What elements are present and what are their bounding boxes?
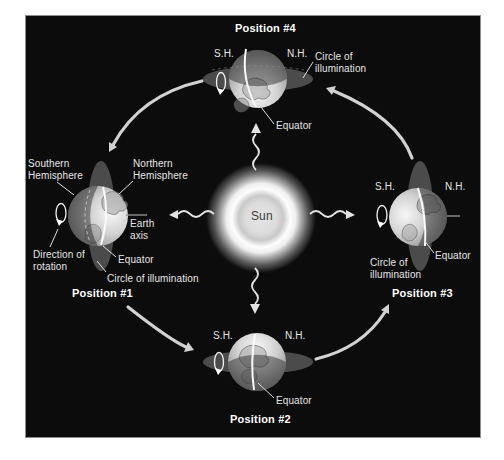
label-position-2-title: Position #2 — [230, 414, 291, 426]
leader-equator-4 — [261, 107, 274, 124]
label-position-3-title: Position #3 — [392, 288, 453, 300]
label-line: Hemisphere — [133, 170, 188, 182]
label-p3-southern-hemisphere-abbrev: S.H. — [375, 181, 395, 193]
night-shadow-4 — [229, 50, 287, 86]
rotation-indicator-3-icon — [377, 206, 387, 229]
label-p2-southern-hemisphere-abbrev: S.H. — [213, 330, 233, 342]
label-southern-hemisphere: Southern Hemisphere — [28, 158, 83, 181]
label-p1-circle-of-illumination: Circle of illumination — [107, 273, 199, 285]
label-p3-equator: Equator — [435, 250, 471, 262]
label-p4-circle-of-illumination: Circle of illumination — [315, 51, 366, 74]
label-line: axis — [130, 230, 154, 242]
label-p3-northern-hemisphere-abbrev: N.H. — [445, 181, 465, 193]
continent — [234, 98, 249, 112]
label-sun: Sun — [251, 211, 273, 223]
seasons-orbit-diagram: { "colors": { "panel_background": "#0c0c… — [0, 0, 504, 460]
diagram-graphics — [0, 0, 504, 460]
label-line: Circle of — [315, 51, 366, 63]
label-line: Southern — [28, 158, 83, 170]
label-line: illumination — [315, 63, 366, 75]
label-position-1-title: Position #1 — [72, 288, 133, 300]
earth-position-2 — [203, 333, 313, 391]
label-p2-equator: Equator — [276, 395, 312, 407]
label-line: Earth — [130, 218, 154, 230]
orbit-arrow-1-to-2-icon — [128, 307, 194, 352]
continent — [402, 224, 417, 241]
night-shadow-2 — [228, 355, 286, 391]
label-p4-northern-hemisphere-abbrev: N.H. — [287, 48, 307, 60]
label-line: Circle of — [370, 257, 421, 269]
label-northern-hemisphere: Northern Hemisphere — [133, 158, 188, 181]
label-earth-axis: Earth axis — [130, 218, 154, 241]
label-position-4-title: Position #4 — [235, 23, 296, 35]
label-line: rotation — [33, 261, 85, 273]
orbit-arrow-2-to-3-icon — [316, 304, 389, 359]
label-p1-equator: Equator — [118, 254, 154, 266]
orbit-arrow-3-to-4-icon — [326, 86, 412, 158]
label-line: illumination — [370, 269, 421, 281]
label-p4-equator: Equator — [276, 120, 312, 132]
label-p2-northern-hemisphere-abbrev: N.H. — [285, 330, 305, 342]
label-line: Northern — [133, 158, 188, 170]
leader-southern-hemisphere — [57, 182, 74, 195]
rotation-indicator-1-icon — [56, 204, 66, 227]
label-p3-circle-of-illumination: Circle of illumination — [370, 257, 421, 280]
sun-ray-down-icon — [250, 268, 260, 314]
label-direction-of-rotation: Direction of rotation — [33, 249, 85, 272]
label-line: Hemisphere — [28, 170, 83, 182]
leader-direction-rotation — [50, 229, 58, 247]
label-p4-southern-hemisphere-abbrev: S.H. — [214, 48, 234, 60]
label-line: Direction of — [33, 249, 85, 261]
leader-northern-hemisphere — [119, 181, 133, 194]
orbit-arrow-4-to-1-icon — [109, 81, 202, 152]
